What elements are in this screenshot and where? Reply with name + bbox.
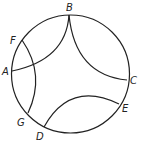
label-c: C: [130, 75, 137, 86]
hyperbolic-disk-diagram: B F A C E G D: [0, 0, 142, 147]
boundary-circle: [12, 15, 130, 133]
arc-b-c: [69, 15, 127, 80]
arc-f-g: [22, 40, 36, 113]
label-e: E: [122, 103, 129, 114]
label-a: A: [1, 66, 9, 77]
label-g: G: [17, 117, 25, 128]
arc-d-e: [44, 96, 119, 127]
label-d: D: [36, 131, 44, 142]
label-f: F: [10, 35, 16, 46]
label-b: B: [66, 2, 73, 13]
